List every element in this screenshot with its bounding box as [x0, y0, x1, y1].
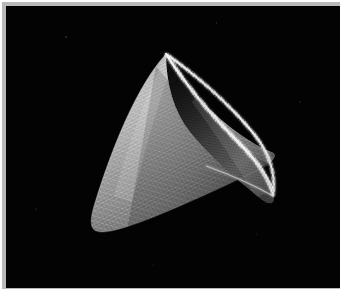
cone-outer-surface — [76, 36, 306, 256]
figure-plate-border — [2, 2, 340, 289]
render-canvas — [6, 6, 340, 288]
cone-render — [6, 6, 340, 288]
figure-frame — [0, 0, 342, 296]
